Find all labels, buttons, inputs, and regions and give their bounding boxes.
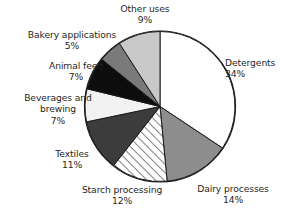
slice-label-name: Animal feed [24, 60, 128, 71]
slice-label-percent: 5% [10, 40, 134, 51]
slice-label-name: Beverages and [6, 92, 110, 103]
slice-label-bakery-applications: Bakery applications 5% [10, 29, 134, 52]
slice-label-percent: 9% [100, 14, 190, 25]
slice-label-starch-processing: Starch processing 12% [62, 184, 182, 207]
pie-chart: Other uses 9% Bakery applications 5% Ani… [0, 0, 281, 216]
slice-label-name: Starch processing [62, 184, 182, 195]
slice-label-name-line2: brewing [6, 103, 110, 114]
slice-label-name: Dairy processes [186, 183, 280, 194]
slice-label-name: Other uses [100, 3, 190, 14]
slice-label-detergents: Detergents 34% [225, 57, 281, 80]
slice-label-other-uses: Other uses 9% [100, 3, 190, 26]
slice-label-beverages-and-brewing: Beverages and brewing 7% [6, 92, 110, 126]
slice-label-textiles: Textiles 11% [28, 148, 116, 171]
slice-label-percent: 11% [28, 159, 116, 170]
slice-label-dairy-processes: Dairy processes 14% [186, 183, 280, 206]
slice-label-percent: 12% [62, 195, 182, 206]
slice-label-percent: 34% [225, 68, 281, 79]
slice-label-name: Bakery applications [10, 29, 134, 40]
slice-label-name: Detergents [225, 57, 281, 68]
slice-label-percent: 14% [186, 194, 280, 205]
slice-label-animal-feed: Animal feed 7% [24, 60, 128, 83]
slice-label-percent: 7% [6, 115, 110, 126]
slice-label-name: Textiles [28, 148, 116, 159]
slice-label-percent: 7% [24, 71, 128, 82]
